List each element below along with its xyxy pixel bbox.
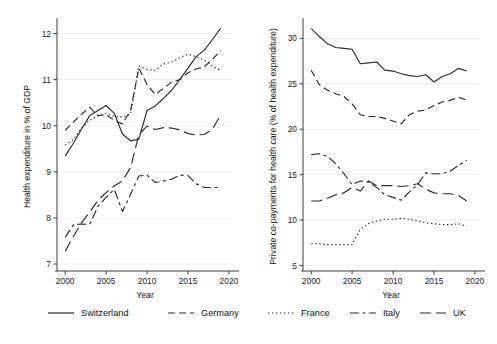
panel-right: 5101520253020002005201020152020YearPriva…	[268, 18, 485, 300]
legend-label-france: France	[301, 308, 330, 318]
legend: SwitzerlandGermanyFranceItalyUK	[48, 308, 467, 318]
panel-left: 78910111220002005201020152020YearHealth …	[22, 18, 239, 300]
series-line-right-germany	[311, 70, 467, 124]
y-tick-label-30: 30	[288, 33, 298, 43]
series-line-right-france	[311, 218, 467, 244]
legend-label-uk: UK	[453, 308, 467, 318]
y-tick-label-8: 8	[46, 213, 51, 223]
y-tick-label-11: 11	[42, 75, 51, 85]
figure-container: 78910111220002005201020152020YearHealth …	[0, 0, 497, 344]
y-tick-label-25: 25	[288, 79, 298, 89]
series-line-left-italy	[65, 175, 221, 237]
series-line-left-france	[65, 54, 221, 145]
x-tick-label-2005: 2005	[343, 276, 362, 286]
y-tick-label-9: 9	[46, 167, 51, 177]
x-tick-label-2015: 2015	[425, 276, 444, 286]
x-axis-title-right: Year	[382, 290, 400, 300]
x-tick-label-2010: 2010	[138, 276, 157, 286]
legend-label-germany: Germany	[201, 308, 239, 318]
chart-svg: 78910111220002005201020152020YearHealth …	[0, 0, 497, 344]
series-line-right-italy	[311, 154, 467, 200]
y-axis-title-right: Private co-payments for health care (% o…	[268, 28, 278, 265]
legend-label-switzerland: Switzerland	[81, 308, 129, 318]
x-tick-label-2005: 2005	[97, 276, 116, 286]
x-tick-label-2000: 2000	[56, 276, 75, 286]
y-tick-label-15: 15	[288, 170, 298, 180]
y-tick-label-20: 20	[288, 124, 298, 134]
x-tick-label-2010: 2010	[384, 276, 403, 286]
y-axis-title-left: Health expenditure in % of GDP	[22, 85, 32, 208]
series-line-right-switzerland	[311, 28, 467, 82]
y-tick-label-10: 10	[288, 215, 298, 225]
x-tick-label-2020: 2020	[220, 276, 239, 286]
legend-label-italy: Italy	[383, 308, 400, 318]
x-tick-label-2000: 2000	[302, 276, 321, 286]
x-tick-label-2020: 2020	[466, 276, 485, 286]
series-line-left-uk	[65, 115, 221, 251]
y-tick-label-12: 12	[42, 29, 52, 39]
y-tick-label-10: 10	[42, 121, 52, 131]
series-line-right-uk	[311, 181, 467, 201]
y-tick-label-5: 5	[292, 261, 297, 271]
x-tick-label-2015: 2015	[179, 276, 198, 286]
x-axis-title-left: Year	[136, 290, 154, 300]
y-tick-label-7: 7	[46, 259, 51, 269]
series-line-left-switzerland	[65, 28, 221, 156]
